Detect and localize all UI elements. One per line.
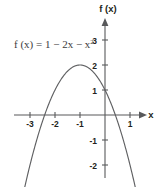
- chart-figure: -3 -2 -1 1 3 2 1 -1 -2 x f (x) f (x) = 1…: [0, 0, 165, 187]
- y-tick-label-1: 1: [92, 86, 97, 96]
- x-tick-label--3: -3: [26, 119, 34, 129]
- y-tick-label--1: -1: [89, 136, 97, 146]
- x-tick-label--2: -2: [51, 119, 59, 129]
- y-tick-label--2: -2: [89, 161, 97, 171]
- y-axis: [102, 18, 109, 178]
- x-tick-label--1: -1: [76, 119, 84, 129]
- equation-main: f (x) = 1 − 2x − x: [14, 38, 91, 51]
- x-axis: [14, 112, 147, 119]
- parabola-plot: -3 -2 -1 1 3 2 1 -1 -2 x f (x) f (x) = 1…: [0, 0, 165, 187]
- y-axis-arrowhead: [102, 18, 109, 26]
- x-axis-arrowhead: [139, 112, 147, 119]
- x-axis-title: x: [148, 109, 154, 120]
- y-tick-label-2: 2: [92, 61, 97, 71]
- y-axis-title: f (x): [99, 3, 116, 14]
- x-tick-label-1: 1: [128, 119, 133, 129]
- equation-annotation: f (x) = 1 − 2x − x2: [14, 38, 94, 51]
- equation-exponent: 2: [90, 38, 94, 46]
